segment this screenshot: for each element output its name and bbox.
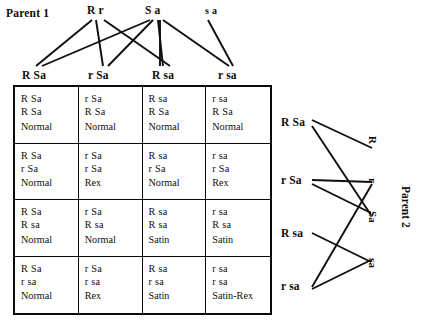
allele-letter: R: [87, 4, 96, 16]
parent2-gamete-0: R Sa: [281, 117, 305, 129]
genotype-allele-top: r Sa: [85, 205, 142, 218]
phenotype-label: Satin: [149, 289, 206, 302]
genotype-allele-top: R sa: [149, 149, 206, 162]
parent2-allele-1: r: [367, 178, 378, 183]
phenotype-label: Normal: [21, 176, 78, 189]
phenotype-label: Normal: [85, 120, 142, 133]
phenotype-label: Satin-Rex: [212, 289, 270, 302]
genotype-allele-top: R Sa: [21, 92, 78, 105]
allele-letter: a: [212, 5, 217, 16]
table-cell: R sa R Sa Normal: [143, 87, 207, 144]
parent2-gamete-2: R sa: [281, 228, 303, 240]
genotype-allele-top: R Sa: [21, 262, 78, 275]
table-cell: R sa r Sa Normal: [143, 144, 207, 201]
genotype-allele-top: r sa: [212, 205, 270, 218]
parent1-gamete-3: r sa: [218, 70, 237, 82]
genotype-allele-top: r Sa: [85, 262, 142, 275]
parent2-allele-2: Sa: [367, 211, 378, 223]
parent2-gamete-3: r sa: [281, 281, 300, 293]
genotype-allele-bottom: R sa: [212, 218, 270, 231]
parent2-title: Parent 2: [400, 186, 412, 228]
genotype-allele-bottom: r Sa: [21, 162, 78, 175]
phenotype-label: Normal: [149, 176, 206, 189]
allele-letter: a: [155, 4, 161, 16]
genotype-allele-bottom: R sa: [85, 218, 142, 231]
genotype-allele-bottom: r sa: [21, 275, 78, 288]
genotype-allele-bottom: r sa: [212, 275, 270, 288]
allele-letter: S: [145, 4, 152, 16]
parent1-gamete-2: R sa: [152, 70, 174, 82]
table-cell: r sa r Sa Rex: [206, 144, 270, 201]
parent1-allele-pair-2: sa: [205, 6, 217, 16]
parent1-allele-pair-1: Sa: [145, 5, 161, 17]
table-cell: R Sa r Sa Normal: [15, 144, 79, 201]
phenotype-label: Normal: [85, 233, 142, 246]
genotype-allele-top: r sa: [212, 92, 270, 105]
table-cell: r Sa r sa Rex: [79, 257, 143, 314]
parent1-title: Parent 1: [6, 8, 49, 20]
parent1-gamete-1: r Sa: [88, 70, 109, 82]
phenotype-label: Rex: [85, 289, 142, 302]
table-cell: R sa R sa Satin: [143, 200, 207, 257]
table-cell: R Sa R Sa Normal: [15, 87, 79, 144]
parent2-allele-3: sa: [367, 258, 378, 268]
table-cell: R Sa r sa Normal: [15, 257, 79, 314]
genotype-allele-top: r sa: [212, 262, 270, 275]
genotype-allele-top: R Sa: [21, 205, 78, 218]
genotype-allele-bottom: R Sa: [149, 105, 206, 118]
table-cell: r sa R sa Satin: [206, 200, 270, 257]
genotype-allele-bottom: r sa: [85, 275, 142, 288]
genotype-allele-top: r Sa: [85, 149, 142, 162]
table-cell: R sa r sa Satin: [143, 257, 207, 314]
genotype-allele-top: r sa: [212, 149, 270, 162]
parent2-gamete-1: r Sa: [281, 175, 302, 187]
table-cell: r sa r sa Satin-Rex: [206, 257, 270, 314]
genotype-allele-bottom: R Sa: [85, 105, 142, 118]
phenotype-label: Normal: [21, 233, 78, 246]
phenotype-label: Normal: [212, 120, 270, 133]
table-cell: r Sa r Sa Rex: [79, 144, 143, 201]
table-cell: R Sa R sa Normal: [15, 200, 79, 257]
phenotype-label: Normal: [21, 289, 78, 302]
genotype-allele-top: R Sa: [21, 149, 78, 162]
allele-letter: s: [205, 5, 209, 16]
parent1-gamete-0: R Sa: [22, 70, 46, 82]
allele-letter: r: [99, 4, 104, 16]
table-cell: r Sa R Sa Normal: [79, 87, 143, 144]
phenotype-label: Rex: [212, 176, 270, 189]
punnett-square-diagram: Parent 1 Rr Sa sa R Sa r Sa R sa r sa R …: [0, 0, 425, 329]
genotype-allele-bottom: R Sa: [21, 105, 78, 118]
genotype-allele-top: R sa: [149, 262, 206, 275]
genotype-allele-bottom: r Sa: [212, 162, 270, 175]
parent1-allele-pair-0: Rr: [87, 5, 104, 17]
genotype-allele-bottom: r sa: [149, 275, 206, 288]
phenotype-label: Rex: [85, 176, 142, 189]
table-cell: r sa R Sa Normal: [206, 87, 270, 144]
phenotype-label: Satin: [212, 233, 270, 246]
phenotype-label: Normal: [149, 120, 206, 133]
genotype-allele-bottom: r Sa: [149, 162, 206, 175]
genotype-allele-top: R sa: [149, 205, 206, 218]
genotype-allele-top: R sa: [149, 92, 206, 105]
phenotype-label: Normal: [21, 120, 78, 133]
phenotype-label: Satin: [149, 233, 206, 246]
genotype-allele-bottom: R Sa: [212, 105, 270, 118]
punnett-grid: R Sa R Sa Normal r Sa R Sa Normal R sa R…: [13, 85, 272, 315]
genotype-allele-bottom: R sa: [21, 218, 78, 231]
genotype-allele-bottom: r Sa: [85, 162, 142, 175]
genotype-allele-bottom: R sa: [149, 218, 206, 231]
genotype-allele-top: r Sa: [85, 92, 142, 105]
parent2-allele-0: R: [367, 136, 378, 144]
table-cell: r Sa R sa Normal: [79, 200, 143, 257]
